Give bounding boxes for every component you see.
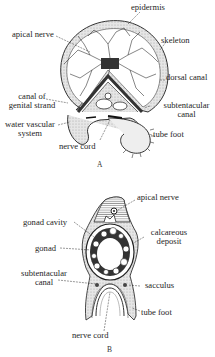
label-line-2: system: [1, 129, 59, 138]
label-a-tube-foot: tube foot: [153, 130, 184, 139]
label-line-2: canal: [158, 110, 215, 119]
label-b-subtentacular-canal: subtentacular canal: [18, 269, 70, 286]
label-line-2: genital strand: [2, 101, 62, 110]
figure-b-drawing: [82, 197, 138, 320]
label-a-skeleton: skeleton: [161, 36, 190, 45]
label-b-gonad-cavity: gonad cavity: [23, 218, 67, 227]
label-a-apical-nerve: apical nerve: [12, 30, 54, 39]
label-b-gonad: gonad: [35, 244, 56, 253]
label-line-2: deposit: [145, 237, 193, 246]
label-b-sacculus: sacculus: [145, 281, 174, 290]
diagram-artwork: [0, 0, 215, 357]
figure-a-caption: A: [97, 160, 102, 169]
label-b-tube-foot: tube foot: [141, 308, 172, 317]
label-a-epidermis: epidermis: [131, 3, 165, 12]
label-b-calcareous-deposit: calcareous deposit: [145, 228, 193, 245]
figure-b-caption: B: [107, 345, 112, 354]
label-b-nerve-cord: nerve cord: [72, 331, 109, 340]
label-b-apical-nerve: apical nerve: [137, 193, 179, 202]
label-a-canal-of-genital-strand: canal of genital strand: [2, 92, 62, 109]
label-a-nerve-cord: nerve cord: [59, 142, 96, 151]
label-a-subtentacular-canal: subtentacular canal: [158, 101, 215, 118]
label-a-water-vascular-system: water vascular system: [1, 120, 59, 137]
label-line-2: canal: [18, 278, 70, 287]
label-a-dorsal-canal: dorsal canal: [166, 73, 207, 82]
